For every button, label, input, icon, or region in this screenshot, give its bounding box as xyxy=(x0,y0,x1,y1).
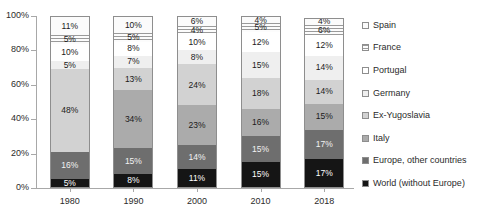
bar-segment: 15% xyxy=(241,136,281,162)
bar-segment: 7% xyxy=(113,56,153,68)
x-tick-mark xyxy=(324,188,325,192)
bar-segment-value: 17% xyxy=(316,169,333,178)
bar-segment: 15% xyxy=(241,52,281,78)
legend-swatch xyxy=(362,112,369,119)
stacked-bar: 6%4%10%8%24%23%14%11% xyxy=(177,16,217,188)
bar-segment: 8% xyxy=(177,50,217,64)
bar-segment: 18% xyxy=(241,78,281,109)
bar-segment-value: 14% xyxy=(316,63,333,72)
bar-segment: 4% xyxy=(177,26,217,33)
x-axis-line xyxy=(36,188,354,189)
y-axis-tick: 100% xyxy=(36,16,37,17)
bar-segment-value: 12% xyxy=(252,38,269,47)
legend-item[interactable]: Germany xyxy=(362,82,478,105)
x-tick-mark xyxy=(70,188,71,192)
legend-item[interactable]: France xyxy=(362,37,478,60)
bar-segment: 4% xyxy=(304,18,344,25)
bar-segment-value: 14% xyxy=(188,153,205,162)
bar-segment: 14% xyxy=(177,145,217,169)
bar-segment-value: 5% xyxy=(254,23,266,32)
x-axis-label: 1990 xyxy=(103,196,163,206)
bar-segment: 5% xyxy=(50,35,90,44)
bar-segment-value: 4% xyxy=(318,18,330,25)
bar-segment-value: 6% xyxy=(191,17,203,26)
bar-segment: 15% xyxy=(241,162,281,188)
bar-segment-value: 15% xyxy=(252,145,269,154)
y-tick-label: 80% xyxy=(11,44,29,54)
y-tick-label: 0% xyxy=(16,182,29,192)
bar-segment-value: 13% xyxy=(125,75,142,84)
legend-label: Spain xyxy=(373,21,396,30)
y-tick-mark xyxy=(31,154,36,155)
x-axis-label: 2018 xyxy=(294,196,354,206)
bar-segment: 24% xyxy=(177,64,217,105)
stacked-bar: 4%6%12%14%14%15%17%17% xyxy=(304,18,344,188)
y-tick-label: 100% xyxy=(6,10,29,20)
bar-segment-value: 48% xyxy=(61,106,78,115)
x-tick-mark xyxy=(261,188,262,192)
x-tick-mark xyxy=(197,188,198,192)
bar-segment: 16% xyxy=(50,152,90,180)
y-tick-label: 20% xyxy=(11,148,29,158)
legend-label: Ex-Yugoslavia xyxy=(373,111,430,120)
bar-segment: 5% xyxy=(50,61,90,70)
bar-segment: 17% xyxy=(304,159,344,188)
y-axis-tick: 0% xyxy=(36,188,37,189)
bar-segment-value: 6% xyxy=(318,26,330,35)
bar-segment-value: 8% xyxy=(191,53,203,62)
y-axis-tick: 40% xyxy=(36,119,37,120)
bar-segment: 5% xyxy=(50,179,90,188)
bar-segment-value: 15% xyxy=(125,157,142,166)
bar-segment-value: 7% xyxy=(127,57,139,66)
y-tick-mark xyxy=(31,188,36,189)
bar-segment-value: 23% xyxy=(188,121,205,130)
bar-segment-value: 4% xyxy=(191,26,203,33)
bar-segment-value: 10% xyxy=(188,38,205,47)
bar-segment-value: 5% xyxy=(64,35,76,44)
legend-item[interactable]: Italy xyxy=(362,127,478,150)
legend-swatch xyxy=(362,67,369,74)
bar-segment-value: 16% xyxy=(252,118,269,127)
bar-segment-value: 18% xyxy=(252,89,269,98)
bar-segment: 17% xyxy=(304,130,344,159)
y-tick-mark xyxy=(31,119,36,120)
bar-segment: 8% xyxy=(113,42,153,56)
bar-segment-value: 10% xyxy=(125,21,142,30)
bar-segment-value: 12% xyxy=(316,41,333,50)
legend-label: Germany xyxy=(373,89,410,98)
x-axis-label: 2010 xyxy=(231,196,291,206)
bar-segment-value: 5% xyxy=(64,61,76,70)
bar-segment: 12% xyxy=(304,35,344,56)
x-axis-label: 2000 xyxy=(167,196,227,206)
bar-segment: 5% xyxy=(241,23,281,32)
bar-segment: 6% xyxy=(304,25,344,35)
bar-segment: 6% xyxy=(177,16,217,26)
bar-segment-value: 11% xyxy=(189,174,205,183)
legend-label: France xyxy=(373,43,401,52)
legend-swatch xyxy=(362,157,369,164)
bar-segment: 11% xyxy=(50,16,90,35)
y-tick-mark xyxy=(31,50,36,51)
bar-segment: 34% xyxy=(113,90,153,148)
legend-item[interactable]: Spain xyxy=(362,14,478,37)
legend-item[interactable]: Ex-Yugoslavia xyxy=(362,104,478,127)
legend-item[interactable]: Portugal xyxy=(362,59,478,82)
stacked-bar: 10%5%8%7%13%34%15%8% xyxy=(113,16,153,188)
legend-swatch xyxy=(362,22,369,29)
bar-segment-value: 15% xyxy=(252,61,269,70)
y-tick-mark xyxy=(31,85,36,86)
bar-segment: 13% xyxy=(113,68,153,90)
plot-area: 0%20%40%60%80%100% 19801990200020102018 … xyxy=(36,16,354,188)
legend-swatch xyxy=(362,90,369,97)
legend-label: Europe, other countries xyxy=(373,156,467,165)
legend-item[interactable]: Europe, other countries xyxy=(362,150,478,173)
stacked-bar: 4%5%12%15%18%16%15%15% xyxy=(241,16,281,188)
bar-segment: 4% xyxy=(241,16,281,23)
chart-legend: SpainFrancePortugalGermanyEx-YugoslaviaI… xyxy=(362,14,478,195)
bar-segment: 8% xyxy=(113,174,153,188)
legend-label: World (without Europe) xyxy=(373,179,465,188)
y-axis-line xyxy=(36,16,37,188)
bar-segment: 10% xyxy=(177,33,217,50)
legend-item[interactable]: World (without Europe) xyxy=(362,172,478,195)
bar-segment-value: 24% xyxy=(188,81,205,90)
